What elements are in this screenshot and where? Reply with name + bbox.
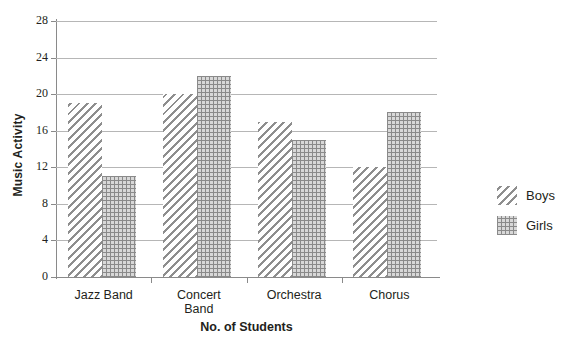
legend-label-girls: Girls: [526, 218, 553, 233]
bar-chorus-boys: [353, 167, 387, 277]
y-tick-label: 24: [18, 51, 48, 63]
legend-swatch-girls-icon: [497, 216, 517, 235]
bar-concert-band-girls: [197, 76, 231, 277]
gridline: [56, 94, 437, 95]
gridline: [56, 58, 437, 59]
bar-orchestra-boys: [258, 122, 292, 277]
x-axis-separator-tick: [342, 277, 343, 283]
x-axis-separator-tick: [151, 277, 152, 283]
legend: Boys Girls: [497, 180, 555, 240]
x-category-label-chorus: Chorus: [342, 288, 437, 302]
plot-area: [56, 21, 437, 277]
legend-item-girls: Girls: [497, 210, 555, 240]
bar-jazz-band-girls: [102, 176, 136, 277]
y-tick-label: 28: [18, 14, 48, 26]
y-tick-label: 8: [18, 197, 48, 209]
x-category-label-orchestra: Orchestra: [247, 288, 342, 302]
bar-chart: Music Activity 0481216202428 Jazz BandCo…: [0, 0, 567, 346]
x-axis-title: No. of Students: [56, 320, 437, 334]
y-tick-label: 4: [18, 233, 48, 245]
legend-swatch-boys-icon: [497, 186, 517, 205]
legend-item-boys: Boys: [497, 180, 555, 210]
x-category-label-jazz-band: Jazz Band: [56, 288, 151, 302]
x-axis-separator-tick: [247, 277, 248, 283]
y-tick-label: 16: [18, 124, 48, 136]
y-tick-label: 0: [18, 270, 48, 282]
x-category-label-concert-band: Concert Band: [151, 288, 246, 316]
y-tick-label: 20: [18, 87, 48, 99]
y-tick-label: 12: [18, 160, 48, 172]
bar-concert-band-boys: [163, 94, 197, 277]
bar-jazz-band-boys: [68, 103, 102, 277]
legend-label-boys: Boys: [526, 188, 555, 203]
x-axis-line: [56, 277, 440, 278]
bar-orchestra-girls: [292, 140, 326, 277]
gridline: [56, 131, 437, 132]
bar-chorus-girls: [387, 112, 421, 277]
gridline: [56, 21, 437, 22]
